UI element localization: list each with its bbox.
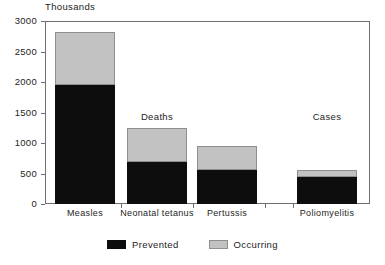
legend-label: Occurring [234, 239, 278, 250]
y-axis: 300025002000150010005000 [0, 0, 45, 265]
y-axis-unit-label: Thousands [45, 1, 95, 12]
x-axis-labels: MeaslesNeonatal tetanusPertussisPoliomye… [45, 208, 370, 224]
y-axis-tick-label: 1000 [15, 137, 37, 148]
stacked-bar-chart: Thousands 300025002000150010005000 Death… [0, 0, 385, 265]
legend-item[interactable]: Occurring [209, 239, 278, 250]
y-axis-tick-label: 2000 [15, 76, 37, 87]
bar-segment-occurring [197, 146, 257, 170]
bars-layer: DeathsCases [45, 21, 370, 204]
y-axis-tick-label: 500 [20, 168, 37, 179]
y-axis-tick-label: 3000 [15, 15, 37, 26]
y-axis-tick-label: 2500 [15, 46, 37, 57]
bar-group [197, 146, 257, 204]
legend-label: Prevented [132, 239, 178, 250]
bar-segment-prevented [197, 170, 257, 204]
plot-annotation-deaths: Deaths [141, 111, 173, 122]
x-axis-label: Measles [67, 208, 103, 218]
x-axis-label: Neonatal tetanus [120, 208, 194, 218]
plot-annotation-cases: Cases [313, 111, 342, 122]
x-axis-label: Poliomyelitis [300, 208, 355, 218]
bar-segment-prevented [127, 162, 187, 204]
chart-legend: PreventedOccurring [0, 239, 385, 250]
bar-segment-occurring [127, 128, 187, 162]
bar-segment-prevented [297, 177, 357, 204]
y-axis-tick-label: 0 [31, 198, 37, 209]
bar-segment-occurring [55, 32, 115, 85]
y-axis-tick-label: 1500 [15, 107, 37, 118]
bar-group [127, 128, 187, 204]
bar-group [297, 170, 357, 204]
bar-segment-prevented [55, 85, 115, 204]
legend-swatch-occurring [209, 240, 228, 249]
legend-swatch-prevented [107, 240, 126, 249]
bar-segment-occurring [297, 170, 357, 177]
bar-group [55, 32, 115, 204]
y-axis-tick-mark [41, 204, 45, 205]
legend-item[interactable]: Prevented [107, 239, 178, 250]
x-axis-label: Pertussis [207, 208, 247, 218]
